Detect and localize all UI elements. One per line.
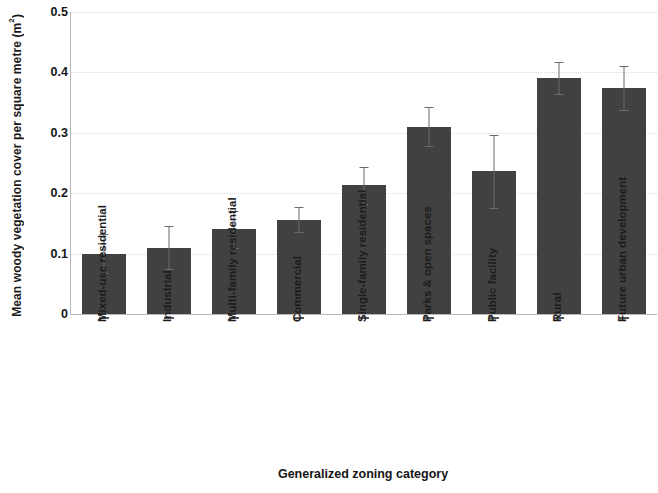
bar xyxy=(537,78,581,314)
y-axis-title-text: Mean woody vegetation cover per square m… xyxy=(8,14,23,317)
x-axis-category-slot: Commercial xyxy=(265,322,330,462)
x-axis-category-label: Mixed-use residential xyxy=(97,205,109,322)
error-bar-line xyxy=(298,207,299,232)
error-bar-cap-top xyxy=(490,135,499,136)
x-axis-category-slot: Industrial xyxy=(135,322,200,462)
error-bar-cap-bottom xyxy=(425,146,434,147)
x-axis-category-label: Industrial xyxy=(162,270,174,322)
y-axis-tick-label: 0.5 xyxy=(32,6,68,19)
x-axis-category-slot: Rural xyxy=(526,322,591,462)
error-bar-cap-top xyxy=(359,167,368,168)
bar-chart-figure: Mean woody vegetation cover per square m… xyxy=(0,0,658,493)
x-axis-category-slot: Future urban development xyxy=(591,322,656,462)
x-axis-category-label: Commercial xyxy=(292,256,304,322)
y-axis-title-superscript: 2 xyxy=(7,18,16,23)
error-bar-cap-top xyxy=(425,107,434,108)
x-axis-category-label: Parks & open spaces xyxy=(422,206,434,322)
y-axis-title-tail: ) xyxy=(10,14,24,18)
error-bar-cap-top xyxy=(620,66,629,67)
y-axis-tick-label: 0.4 xyxy=(32,66,68,79)
error-bar-line xyxy=(429,107,430,146)
x-axis-category-label: Public facility xyxy=(487,248,499,322)
error-bar-cap-bottom xyxy=(620,110,629,111)
x-axis-category-slot: Public facility xyxy=(461,322,526,462)
x-axis-category-label: Single-family residential xyxy=(357,190,369,322)
x-axis-title: Generalized zoning category xyxy=(70,468,656,481)
x-axis-category-label: Multi-family residential xyxy=(227,197,239,322)
error-bar-line xyxy=(494,135,495,207)
y-axis-tick-labels: 0.50.40.30.20.10 xyxy=(26,0,68,493)
bar-slot xyxy=(136,12,201,314)
x-axis-category-labels: Mixed-use residentialIndustrialMulti-fam… xyxy=(70,322,656,462)
error-bar-cap-top xyxy=(294,207,303,208)
error-bar-line xyxy=(559,62,560,93)
y-axis-tick-label: 0.3 xyxy=(32,127,68,140)
error-bar-cap-bottom xyxy=(490,208,499,209)
error-bar-cap-top xyxy=(555,62,564,63)
x-axis-category-slot: Single-family residential xyxy=(330,322,395,462)
y-axis-tick-label: 0.1 xyxy=(32,247,68,260)
y-axis-tick-label: 0.2 xyxy=(32,187,68,200)
y-axis-tick-label: 0 xyxy=(32,308,68,321)
x-axis-category-slot: Multi-family residential xyxy=(200,322,265,462)
x-axis-category-slot: Parks & open spaces xyxy=(396,322,461,462)
error-bar-cap-bottom xyxy=(294,232,303,233)
y-axis-title-main: Mean woody vegetation cover per square m… xyxy=(10,22,24,316)
error-bar-cap-bottom xyxy=(555,94,564,95)
x-axis-category-label: Future urban development xyxy=(618,177,630,322)
error-bar-cap-top xyxy=(164,226,173,227)
x-axis-category-label: Rural xyxy=(553,293,565,322)
bar-slot xyxy=(527,12,592,314)
error-bar-line xyxy=(168,226,169,268)
error-bar-line xyxy=(624,66,625,109)
x-axis-category-slot: Mixed-use residential xyxy=(70,322,135,462)
